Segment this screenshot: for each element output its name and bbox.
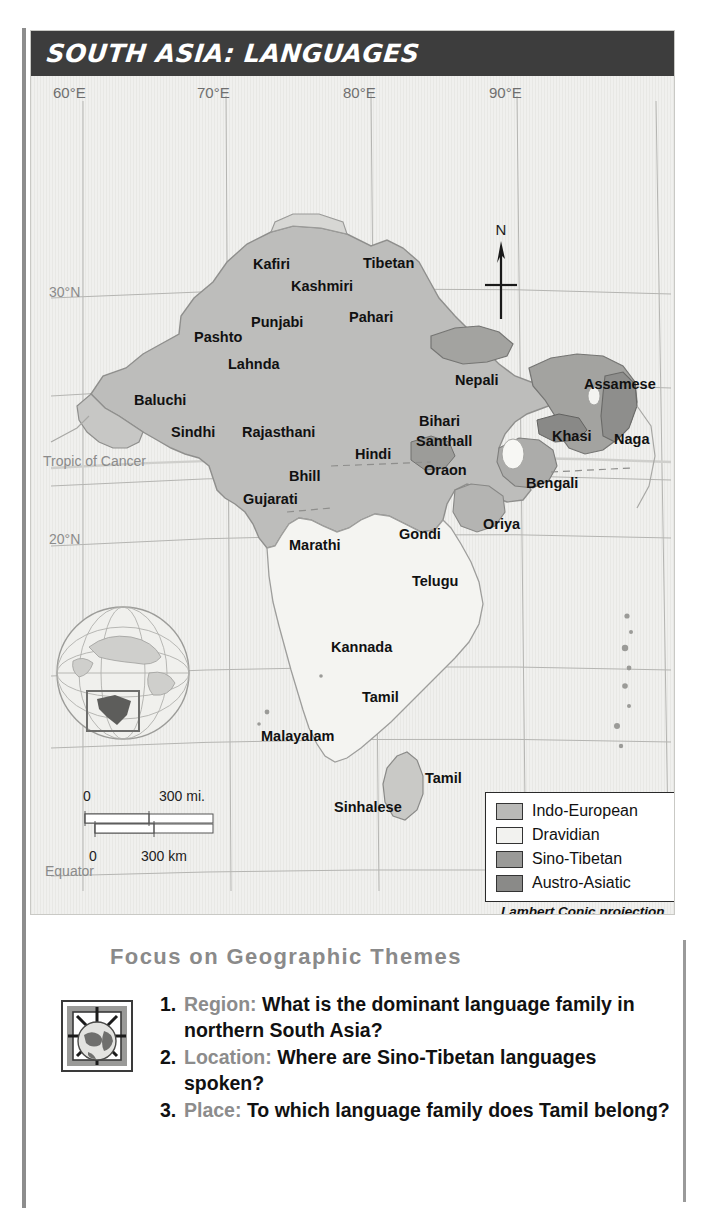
map-label-hindi: Hindi [355, 446, 391, 462]
question-body-2: Location: Where are Sino-Tibetan languag… [184, 1044, 680, 1096]
legend-swatch-sino-tibetan [496, 851, 523, 868]
left-margin-rule [22, 28, 26, 1208]
lake-patch-east [502, 439, 524, 469]
focus-section: Focus on Geographic Themes 1. [30, 935, 683, 1205]
focus-title: Focus on Geographic Themes [110, 944, 462, 970]
map-label-oriya: Oriya [483, 516, 520, 532]
question-number-3: 3. [160, 1097, 184, 1123]
map-label-bhill: Bhill [289, 468, 320, 484]
focus-question-list: 1. Region: What is the dominant language… [160, 991, 680, 1124]
lon-label-80e: 80°E [343, 84, 376, 101]
compass-rose: N [471, 219, 531, 329]
focus-question-2: 2. Location: Where are Sino-Tibetan lang… [160, 1044, 680, 1096]
legend-row-dravidian: Dravidian [496, 823, 675, 847]
svg-text:N: N [496, 221, 507, 238]
map-label-pashto: Pashto [194, 329, 242, 345]
map-label-santhall: Santhall [416, 433, 472, 449]
right-margin-rule [683, 940, 686, 1202]
map-label-sinhalese: Sinhalese [334, 799, 402, 815]
question-text-3: To which language family does Tamil belo… [247, 1099, 670, 1121]
map-label-assamese: Assamese [584, 376, 656, 392]
map-label-malayalam: Malayalam [261, 728, 334, 744]
question-body-1: Region: What is the dominant language fa… [184, 991, 680, 1043]
legend-label-indo-european: Indo-European [532, 802, 638, 820]
map-title-bar: SOUTH ASIA: LANGUAGES [31, 31, 675, 76]
question-number-1: 1. [160, 991, 184, 1043]
legend-label-austro-asiatic: Austro-Asiatic [532, 874, 631, 892]
legend-swatch-austro-asiatic [496, 875, 523, 892]
legend-swatch-dravidian [496, 827, 523, 844]
globe-inset [49, 599, 197, 747]
map-label-pahari: Pahari [349, 309, 393, 325]
page-root: SOUTH ASIA: LANGUAGES [0, 0, 708, 1220]
lat-label-20n: 20°N [49, 531, 80, 547]
map-label-bihari: Bihari [419, 413, 460, 429]
map-title: SOUTH ASIA: LANGUAGES [45, 39, 421, 68]
legend-row-indo-european: Indo-European [496, 799, 675, 823]
map-label-rajasthani: Rajasthani [242, 424, 315, 440]
lat-label-30n: 30°N [49, 284, 80, 300]
map-label-tibetan: Tibetan [363, 255, 414, 271]
map-label-oraon: Oraon [424, 462, 467, 478]
legend-label-sino-tibetan: Sino-Tibetan [532, 850, 622, 868]
question-theme-1: Region: [184, 993, 257, 1015]
map-label-telugu: Telugu [412, 573, 458, 589]
lon-label-70e: 70°E [197, 84, 230, 101]
map-label-kafiri: Kafiri [253, 256, 290, 272]
geographic-themes-icon [58, 997, 136, 1075]
map-label-kannada: Kannada [331, 639, 392, 655]
scale-miles-zero: 0 [83, 788, 91, 804]
map-legend: Indo-European Dravidian Sino-Tibetan Aus… [485, 792, 675, 902]
scale-miles-max: 300 mi. [159, 788, 205, 804]
map-label-gujarati: Gujarati [243, 491, 298, 507]
map-label-marathi: Marathi [289, 537, 341, 553]
lon-label-90e: 90°E [489, 84, 522, 101]
scale-km-max: 300 km [141, 848, 187, 864]
legend-row-austro-asiatic: Austro-Asiatic [496, 871, 675, 895]
map-label-baluchi: Baluchi [134, 392, 186, 408]
focus-question-3: 3. Place: To which language family does … [160, 1097, 680, 1123]
map-label-bengali: Bengali [526, 475, 578, 491]
question-theme-2: Location: [184, 1046, 272, 1068]
legend-row-sino-tibetan: Sino-Tibetan [496, 847, 675, 871]
scale-km-zero: 0 [89, 848, 97, 864]
map-label-nepali: Nepali [455, 372, 499, 388]
question-body-3: Place: To which language family does Tam… [184, 1097, 680, 1123]
focus-question-1: 1. Region: What is the dominant language… [160, 991, 680, 1043]
question-theme-3: Place: [184, 1099, 241, 1121]
lat-label-tropic-of-cancer: Tropic of Cancer [43, 453, 146, 469]
map-label-lahnda: Lahnda [228, 356, 280, 372]
lon-label-60e: 60°E [53, 84, 86, 101]
map-label-kashmiri: Kashmiri [291, 278, 353, 294]
map-label-gondi: Gondi [399, 526, 441, 542]
map-canvas: 60°E 70°E 80°E 90°E 30°N Tropic of Cance… [31, 76, 675, 915]
legend-swatch-indo-european [496, 803, 523, 820]
projection-note: Lambert Conic projection [501, 904, 665, 915]
question-number-2: 2. [160, 1044, 184, 1096]
map-label-sindhi: Sindhi [171, 424, 215, 440]
map-panel: SOUTH ASIA: LANGUAGES [30, 30, 675, 915]
scale-bar: 0 300 mi. 0 300 km [83, 788, 253, 868]
map-label-punjabi: Punjabi [251, 314, 303, 330]
legend-label-dravidian: Dravidian [532, 826, 600, 844]
map-label-naga: Naga [614, 431, 649, 447]
map-label-tamil-india: Tamil [362, 689, 399, 705]
map-label-tamil-srilanka: Tamil [425, 770, 462, 786]
map-label-khasi: Khasi [552, 428, 592, 444]
